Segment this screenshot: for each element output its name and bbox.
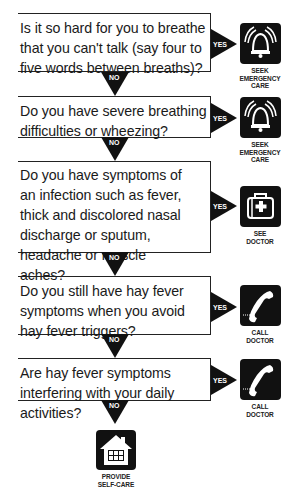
action-label-2: SEEK EMERGENCY CARE	[230, 141, 290, 164]
svg-text:NO: NO	[109, 336, 120, 343]
svg-text:YES: YES	[213, 41, 227, 48]
no-arrow-5: NO	[101, 400, 129, 424]
question-box-2: Do you have severe breathing difficultie…	[18, 96, 211, 138]
svg-text:YES: YES	[213, 115, 227, 122]
yes-arrow-4: YES	[211, 292, 237, 322]
svg-text:NO: NO	[109, 402, 120, 409]
svg-text:NO: NO	[109, 74, 120, 81]
question-box-4: Do you still have hay fever symptoms whe…	[18, 276, 211, 335]
question-box-1: Is it so hard for you to breathe that yo…	[18, 13, 211, 72]
yes-arrow-2: YES	[211, 103, 237, 133]
action-label-5: CALL DOCTOR	[230, 403, 290, 418]
action-label-3: SEE DOCTOR	[230, 230, 290, 245]
bell-icon	[240, 23, 281, 64]
no-arrow-3: NO	[101, 252, 129, 276]
final-action-label: PROVIDE SELF-CARE	[86, 473, 146, 488]
question-text-2: Do you have severe breathing difficultie…	[20, 101, 208, 141]
action-label-1: SEEK EMERGENCY CARE	[230, 67, 290, 90]
svg-text:NO: NO	[109, 254, 120, 261]
svg-text:YES: YES	[213, 203, 227, 210]
no-arrow-1: NO	[101, 72, 129, 96]
question-box-5: Are hay fever symptoms interfering with …	[18, 358, 211, 401]
action-label-4: CALL DOCTOR	[230, 329, 290, 344]
no-arrow-4: NO	[101, 334, 129, 358]
house-icon	[96, 430, 136, 470]
question-text-1: Is it so hard for you to breathe that yo…	[20, 18, 208, 78]
phone-icon	[240, 285, 281, 326]
svg-text:YES: YES	[213, 304, 227, 311]
bell-icon	[240, 97, 281, 138]
phone-icon	[240, 359, 281, 400]
yes-arrow-3: YES	[211, 191, 237, 221]
no-arrow-2: NO	[101, 137, 129, 161]
yes-arrow-1: YES	[211, 29, 237, 59]
svg-text:NO: NO	[109, 139, 120, 146]
medical-bag-icon	[240, 186, 281, 227]
question-text-4: Do you still have hay fever symptoms whe…	[20, 281, 190, 341]
svg-text:YES: YES	[213, 377, 227, 384]
question-box-3: Do you have symptoms of an infection suc…	[18, 161, 211, 253]
yes-arrow-5: YES	[211, 365, 237, 395]
